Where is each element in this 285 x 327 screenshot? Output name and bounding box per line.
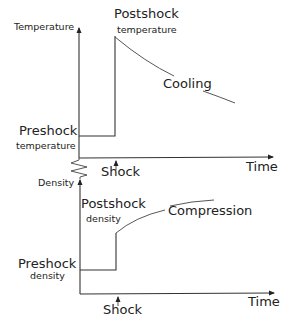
compression-label: Compression [168, 203, 252, 218]
temperature-panel: Temperature Postshock temperature Coolin… [13, 6, 278, 179]
postshock-density-label-2: density [86, 213, 121, 224]
axis-break-icon [71, 158, 87, 179]
postshock-temperature-label-2: temperature [117, 24, 177, 35]
cooling-label: Cooling [163, 76, 212, 91]
shock-label-bottom: Shock [103, 302, 143, 317]
density-step [80, 233, 116, 270]
shock-label-top: Shock [101, 164, 141, 179]
time-axis-top [79, 157, 273, 158]
preshock-density-label-2: density [30, 270, 65, 281]
temperature-axis-label: Temperature [13, 21, 74, 32]
cooling-curve-tail [203, 91, 235, 103]
density-axis-label: Density [38, 177, 74, 188]
cooling-label-text: Cooling [163, 76, 212, 91]
preshock-temperature-label-2: temperature [16, 140, 76, 151]
cooling-curve [115, 37, 174, 76]
preshock-density-label-1: Preshock [18, 256, 77, 271]
time-label-top: Time [245, 159, 278, 174]
preshock-temperature-label-1: Preshock [19, 123, 78, 138]
postshock-density-label-1: Postshock [81, 196, 146, 211]
postshock-temperature-label-1: Postshock [114, 6, 179, 21]
time-axis-bottom [80, 293, 274, 294]
shock-diagram: Temperature Postshock temperature Coolin… [0, 0, 285, 327]
density-panel: Density Postshock density Compression Pr… [18, 177, 280, 317]
time-label-bottom: Time [247, 294, 280, 309]
temperature-step [79, 36, 115, 136]
postshock-temperature-label-1-text: Postshock [114, 6, 179, 21]
compression-curve [116, 210, 165, 233]
